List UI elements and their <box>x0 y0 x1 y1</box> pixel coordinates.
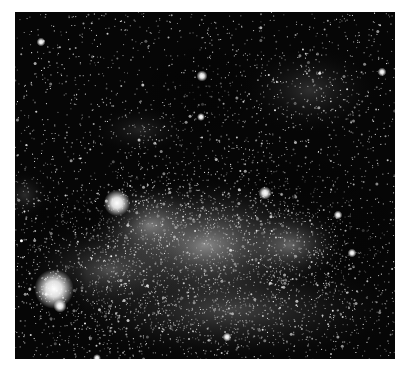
star-field-canvas <box>15 12 395 359</box>
milky-way-photo: Grayscale astronomical photograph of a d… <box>15 12 395 359</box>
